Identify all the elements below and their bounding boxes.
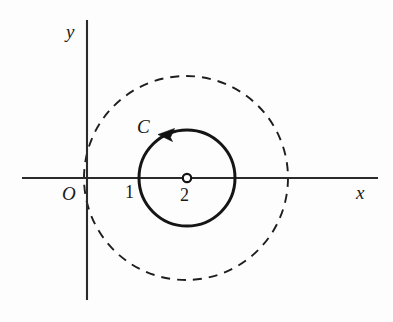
singularity-point-marker [183, 174, 191, 182]
x-axis-label: x [356, 183, 364, 202]
figure-graphic [0, 0, 393, 322]
x-tick-label-1: 1 [125, 183, 134, 201]
x-tick-label-2: 2 [180, 186, 189, 204]
contour-label-c: C [137, 117, 150, 136]
figure-canvas: y x O 1 2 C [0, 0, 393, 322]
y-axis-label: y [66, 22, 74, 41]
origin-label: O [62, 184, 76, 203]
